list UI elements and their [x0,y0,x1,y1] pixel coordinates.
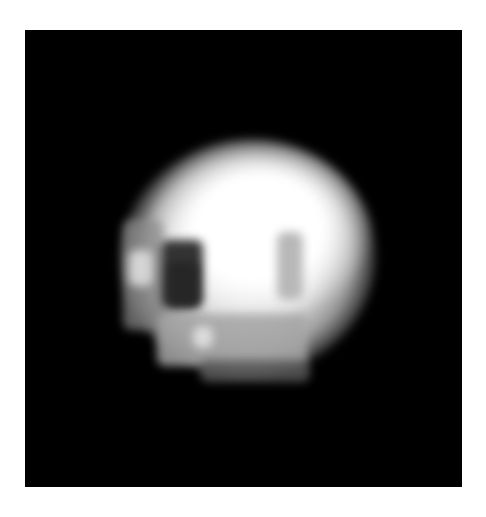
gray-stripe [277,232,303,300]
left-bright-patch [129,250,153,286]
lower-gray-band [157,314,307,366]
dark-spot-core [168,262,198,306]
bottom-limb-shadow [200,360,310,382]
lower-bright-patch [193,326,213,348]
image-frame [25,30,462,487]
